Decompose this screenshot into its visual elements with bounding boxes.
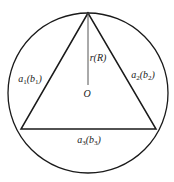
- side-right-label: a2(b2): [131, 70, 155, 82]
- radius-label: r(R): [90, 53, 107, 63]
- side-left-label: a1(b1): [18, 74, 42, 86]
- diagram-canvas: r(R) O a1(b1) a2(b2) a3(b3): [0, 0, 174, 182]
- side-left-sub: 1: [23, 78, 27, 86]
- side-left-paren-sub: 1: [35, 78, 39, 86]
- side-right-paren-sub: 2: [148, 74, 152, 82]
- center-label-text: O: [83, 88, 90, 99]
- center-label: O: [83, 89, 90, 99]
- side-bottom-label: a3(b3): [77, 135, 101, 147]
- side-bottom-sub: 3: [82, 139, 86, 147]
- radius-label-text: r(R): [90, 52, 107, 63]
- side-right-sub: 2: [136, 74, 140, 82]
- side-bottom-paren-sub: 3: [94, 139, 98, 147]
